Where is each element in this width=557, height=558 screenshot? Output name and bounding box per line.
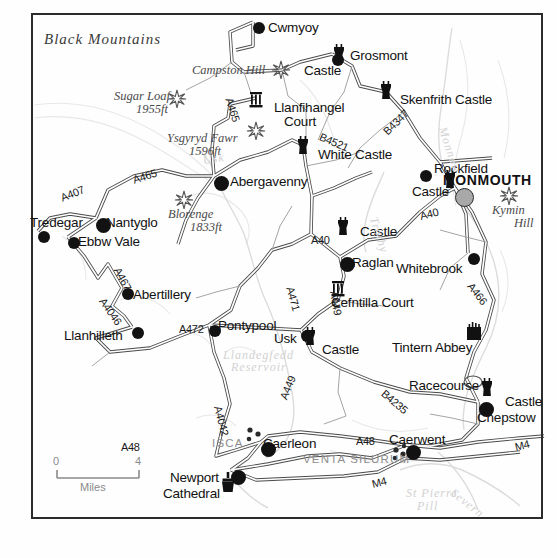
town-label-whitebrook[interactable]: Whitebrook bbox=[396, 261, 462, 276]
road-number-a48-356[interactable]: A48 bbox=[356, 435, 375, 447]
town-marker-chepstow[interactable] bbox=[479, 402, 494, 417]
castle-label-3[interactable]: Castle bbox=[322, 342, 359, 357]
roman-site-label-isca: ISCA bbox=[212, 437, 244, 449]
castle-label-1[interactable]: Castle bbox=[412, 184, 449, 199]
town-label-nantyglo[interactable]: Nantyglo bbox=[106, 215, 158, 230]
hill-elevation-kymin: Hill bbox=[514, 216, 533, 231]
water-label-usk: Usk bbox=[202, 150, 226, 168]
town-marker-whitebrook[interactable] bbox=[468, 253, 480, 265]
town-marker-rockfield[interactable] bbox=[420, 170, 432, 182]
town-marker-caerleon[interactable] bbox=[261, 442, 276, 457]
town-label-racecourse[interactable]: Racecourse bbox=[409, 378, 479, 393]
town-marker-grosmont[interactable] bbox=[332, 54, 344, 66]
town-label-llanhilleth[interactable]: Llanhilleth bbox=[64, 328, 123, 343]
town-marker-cwmyoy[interactable] bbox=[253, 22, 265, 34]
town-marker-pontypool[interactable] bbox=[209, 325, 221, 337]
hill-label-campston-hill: Campston Hill bbox=[192, 63, 265, 78]
town-label-court[interactable]: Court bbox=[284, 114, 316, 129]
town-label-abergavenny[interactable]: Abergavenny bbox=[230, 174, 307, 189]
hill-elevation-sugar-loaf: 1955ft bbox=[136, 102, 168, 117]
town-marker-raglan[interactable] bbox=[340, 257, 355, 272]
road-number-a40-311[interactable]: A40 bbox=[311, 234, 330, 246]
town-label-tredegar[interactable]: Tredegar bbox=[30, 215, 83, 230]
region-label-black-mountains: Black Mountains bbox=[44, 31, 161, 48]
town-label-cathedral[interactable]: Cathedral bbox=[163, 486, 220, 501]
town-label-cefntilla-court[interactable]: Cefntilla Court bbox=[331, 295, 414, 310]
town-marker-newport[interactable] bbox=[231, 470, 246, 485]
town-label-grosmont[interactable]: Grosmont bbox=[350, 48, 408, 63]
hill-elevation-blorenge: 1833ft bbox=[190, 220, 222, 235]
water-label-pill: Pill bbox=[417, 499, 438, 514]
town-label-newport[interactable]: Newport bbox=[170, 470, 219, 485]
town-label-abertillery[interactable]: Abertillery bbox=[133, 287, 191, 302]
town-marker-monmouth[interactable] bbox=[455, 188, 474, 207]
roman-site-label-venta-silurum: VENTA SILURUM bbox=[303, 453, 410, 465]
town-marker-usk[interactable] bbox=[301, 330, 313, 342]
town-marker-tredegar[interactable] bbox=[38, 231, 50, 243]
town-label-skenfrith-castle[interactable]: Skenfrith Castle bbox=[400, 92, 492, 107]
town-label-caerwent[interactable]: Caerwent bbox=[389, 432, 445, 447]
scale-left-label: 0 bbox=[53, 455, 59, 467]
town-label-tintern-abbey[interactable]: Tintern Abbey bbox=[392, 340, 472, 355]
town-label-ebbw-vale[interactable]: Ebbw Vale bbox=[78, 234, 140, 249]
town-label-monmouth[interactable]: MONMOUTH bbox=[443, 172, 532, 188]
town-marker-abergavenny[interactable] bbox=[214, 176, 229, 191]
town-label-raglan[interactable]: Raglan bbox=[352, 255, 394, 270]
road-number-a48-121[interactable]: A48 bbox=[121, 441, 140, 453]
town-label-pontypool[interactable]: Pontypool bbox=[218, 318, 276, 333]
town-label-llanfihangel[interactable]: Llanfihangel bbox=[274, 100, 344, 115]
road-number-a472-179[interactable]: A472 bbox=[179, 323, 204, 335]
town-marker-ebbw-vale[interactable] bbox=[68, 237, 80, 249]
town-marker-nantyglo[interactable] bbox=[96, 218, 111, 233]
water-label-reservoir: Reservoir bbox=[231, 360, 287, 375]
map-canvas: Black MountainsCampston HillSugar Loaf19… bbox=[0, 0, 557, 558]
town-marker-caerwent[interactable] bbox=[406, 445, 421, 460]
town-label-cwmyoy[interactable]: Cwmyoy bbox=[268, 20, 319, 35]
castle-label-4[interactable]: Castle bbox=[505, 394, 542, 409]
town-label-white-castle[interactable]: White Castle bbox=[318, 147, 392, 162]
town-marker-abertillery[interactable] bbox=[122, 288, 134, 300]
scale-unit-label: Miles bbox=[80, 481, 106, 493]
scale-right-label: 4 bbox=[135, 455, 141, 467]
town-marker-llanhilleth[interactable] bbox=[132, 327, 144, 339]
town-label-usk[interactable]: Usk bbox=[274, 331, 297, 346]
